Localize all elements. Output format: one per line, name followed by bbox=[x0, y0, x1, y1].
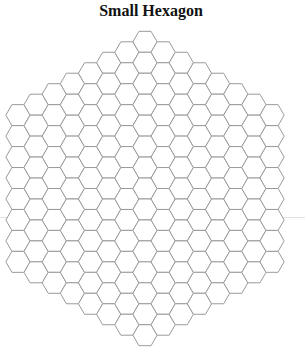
hex-cells-group bbox=[6, 31, 284, 345]
hexagon-grid-board bbox=[0, 0, 305, 360]
